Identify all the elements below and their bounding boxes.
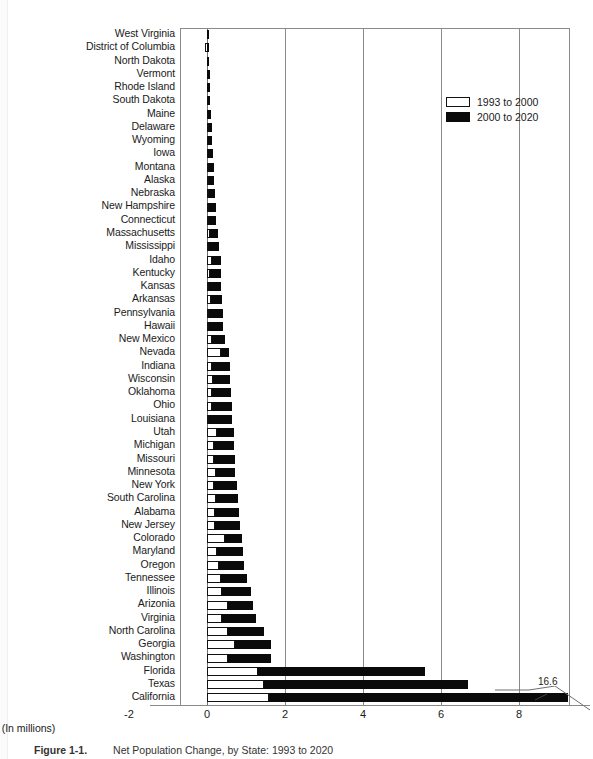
row-label-kentucky: Kentucky xyxy=(0,266,175,279)
segment-1993-2000 xyxy=(207,561,219,570)
row-label-arizonia: Arizonia xyxy=(0,597,175,610)
segment-2000-2020 xyxy=(209,203,215,212)
bar-row: Nevada xyxy=(0,346,593,359)
bar-stack xyxy=(181,572,569,585)
figure-caption-number: Figure 1-1. xyxy=(34,744,87,756)
segment-2000-2020 xyxy=(207,43,209,52)
segment-2000-2020 xyxy=(210,229,219,238)
segment-2000-2020 xyxy=(208,136,212,145)
bar-stack xyxy=(181,147,569,160)
segment-1993-2000 xyxy=(207,547,217,556)
row-label-wyoming: Wyoming xyxy=(0,133,175,146)
segment-1993-2000 xyxy=(207,667,258,676)
row-label-west-virginia: West Virginia xyxy=(0,27,175,40)
bar-stack xyxy=(181,28,569,41)
segment-2000-2020 xyxy=(209,309,223,318)
segment-2000-2020 xyxy=(209,176,215,185)
row-label-rhode-island: Rhode Island xyxy=(0,80,175,93)
segment-2000-2020 xyxy=(221,574,247,583)
bar-row: South Carolina xyxy=(0,492,593,505)
segment-2000-2020 xyxy=(258,667,426,676)
segment-1993-2000 xyxy=(207,428,217,437)
bar-stack xyxy=(181,519,569,532)
segment-2000-2020 xyxy=(264,680,469,689)
segment-1993-2000 xyxy=(207,640,235,649)
segment-2000-2020 xyxy=(210,269,221,278)
segment-1993-2000 xyxy=(207,574,221,583)
row-label-north-dakota: North Dakota xyxy=(0,54,175,67)
segment-1993-2000 xyxy=(207,601,228,610)
bar-row: Iowa xyxy=(0,147,593,160)
bar-stack xyxy=(181,41,569,54)
segment-2000-2020 xyxy=(208,110,212,119)
bar-stack xyxy=(181,174,569,187)
row-label-north-carolina: North Carolina xyxy=(0,624,175,637)
bar-row: Alabama xyxy=(0,506,593,519)
bar-row: Missouri xyxy=(0,453,593,466)
segment-2000-2020 xyxy=(215,508,239,517)
bar-row: District of Columbia xyxy=(0,41,593,54)
bar-row: North Carolina xyxy=(0,625,593,638)
bar-row: Oregon xyxy=(0,559,593,572)
segment-1993-2000 xyxy=(207,693,269,702)
row-label-indiana: Indiana xyxy=(0,359,175,372)
bar-row: Louisiana xyxy=(0,413,593,426)
row-label-district-of-columbia: District of Columbia xyxy=(0,40,175,53)
row-label-maryland: Maryland xyxy=(0,544,175,557)
segment-2000-2020 xyxy=(216,494,238,503)
bar-stack xyxy=(181,134,569,147)
bar-stack xyxy=(181,293,569,306)
bar-stack xyxy=(181,545,569,558)
row-label-louisiana: Louisiana xyxy=(0,412,175,425)
row-label-new-hampshire: New Hampshire xyxy=(0,199,175,212)
segment-2000-2020 xyxy=(222,614,256,623)
segment-2000-2020 xyxy=(235,640,271,649)
bar-row: Georgia xyxy=(0,638,593,651)
row-label-new-mexico: New Mexico xyxy=(0,332,175,345)
row-label-montana: Montana xyxy=(0,160,175,173)
bar-stack xyxy=(181,68,569,81)
segment-2000-2020 xyxy=(209,322,223,331)
row-label-idaho: Idaho xyxy=(0,253,175,266)
bar-row: Colorado xyxy=(0,532,593,545)
row-label-nevada: Nevada xyxy=(0,345,175,358)
row-label-mississippi: Mississippi xyxy=(0,239,175,252)
segment-1993-2000 xyxy=(207,614,222,623)
row-label-utah: Utah xyxy=(0,425,175,438)
row-label-alaska: Alaska xyxy=(0,173,175,186)
bar-row: New Hampshire xyxy=(0,200,593,213)
segment-2000-2020 xyxy=(208,149,213,158)
bar-row: Idaho xyxy=(0,254,593,267)
bar-stack xyxy=(181,187,569,200)
bar-row: Ohio xyxy=(0,399,593,412)
bar-row: New York xyxy=(0,479,593,492)
legend-swatch-black xyxy=(446,112,470,122)
figure-net-population-change: West VirginiaDistrict of ColumbiaNorth D… xyxy=(0,0,593,759)
segment-2000-2020 xyxy=(225,534,241,543)
bar-stack xyxy=(181,346,569,359)
row-label-iowa: Iowa xyxy=(0,146,175,159)
row-label-new-york: New York xyxy=(0,478,175,491)
row-label-california: California xyxy=(0,690,175,703)
x-tick-0: 0 xyxy=(204,708,210,720)
bar-stack xyxy=(181,479,569,492)
x-tick--2: -2 xyxy=(124,708,134,720)
bar-stack xyxy=(181,532,569,545)
row-label-michigan: Michigan xyxy=(0,438,175,451)
segment-2000-2020 xyxy=(209,242,219,251)
row-label-oklahoma: Oklahoma xyxy=(0,385,175,398)
segment-2000-2020 xyxy=(213,375,230,384)
bar-row: Washington xyxy=(0,651,593,664)
segment-2000-2020 xyxy=(217,547,243,556)
bar-stack xyxy=(181,559,569,572)
segment-1993-2000 xyxy=(207,680,264,689)
bar-row: North Dakota xyxy=(0,55,593,68)
bar-stack xyxy=(181,492,569,505)
row-label-wisconsin: Wisconsin xyxy=(0,372,175,385)
row-label-nebraska: Nebraska xyxy=(0,186,175,199)
segment-2000-2020 xyxy=(209,415,232,424)
row-label-south-carolina: South Carolina xyxy=(0,491,175,504)
legend-label-1993-2000: 1993 to 2000 xyxy=(477,96,538,108)
bar-stack xyxy=(181,227,569,240)
segment-2000-2020 xyxy=(216,468,236,477)
